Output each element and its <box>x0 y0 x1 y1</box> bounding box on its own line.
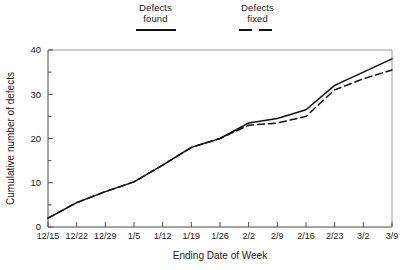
x-tick-label: 12/29 <box>94 231 117 241</box>
x-tick-label: 2/9 <box>271 231 284 241</box>
x-axis-tick-labels: 12/1512/2212/291/51/121/191/262/22/92/16… <box>37 231 399 241</box>
x-tick-label: 3/2 <box>357 231 370 241</box>
x-tick-label: 2/2 <box>242 231 255 241</box>
x-tick-label: 1/19 <box>183 231 201 241</box>
y-tick-label: 10 <box>30 177 41 188</box>
x-axis-title: Ending Date of Week <box>173 250 268 261</box>
y-axis-title: Cumulative number of defects <box>5 72 16 205</box>
y-tick-label: 40 <box>30 44 41 55</box>
y-tick-label: 20 <box>30 133 41 144</box>
x-axis-ticks <box>48 222 392 227</box>
chart-page: Defects found Defects fixed 010203040 12… <box>0 0 413 270</box>
x-tick-label: 1/26 <box>211 231 229 241</box>
y-axis-tick-labels: 010203040 <box>30 44 41 232</box>
x-tick-label: 2/23 <box>326 231 344 241</box>
x-tick-label: 2/16 <box>297 231 315 241</box>
series-line-defects-fixed <box>48 70 392 218</box>
x-tick-label: 3/9 <box>386 231 399 241</box>
chart-plot-area: 010203040 12/1512/2212/291/51/121/191/26… <box>0 0 413 270</box>
x-tick-label: 12/15 <box>37 231 60 241</box>
y-axis-ticks <box>48 50 53 227</box>
line-chart: 010203040 12/1512/2212/291/51/121/191/26… <box>0 0 413 270</box>
x-tick-label: 1/12 <box>154 231 172 241</box>
x-tick-label: 1/5 <box>128 231 141 241</box>
x-tick-label: 12/22 <box>65 231 88 241</box>
y-tick-label: 30 <box>30 89 41 100</box>
